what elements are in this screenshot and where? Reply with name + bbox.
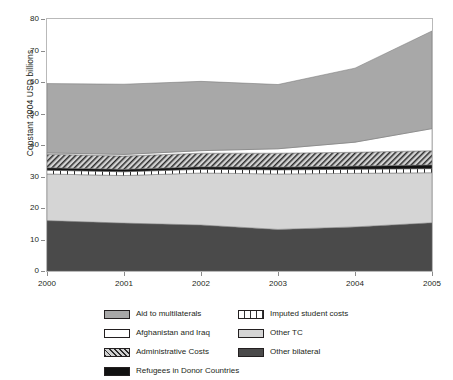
legend-column-left: Aid to multilateralsAfghanistan and Iraq…: [104, 306, 254, 380]
x-axis-tick-mark: [432, 272, 433, 276]
area-series: [47, 173, 432, 230]
y-axis-tick-label: 50: [13, 110, 39, 118]
y-axis-tick-mark: [41, 82, 45, 83]
legend-swatch-icon: [238, 348, 264, 357]
plot-svg: [47, 19, 432, 271]
y-axis-tick-label: 60: [13, 78, 39, 86]
y-axis-tick-mark: [41, 208, 45, 209]
legend-item[interactable]: Administrative Costs: [104, 344, 254, 360]
x-axis-tick-mark: [124, 272, 125, 276]
legend-item[interactable]: Other TC: [238, 325, 408, 341]
legend-item-label: Aid to multilaterals: [136, 310, 201, 318]
y-axis-tick-label: 80: [13, 15, 39, 23]
y-axis-tick-label: 20: [13, 204, 39, 212]
x-axis-tick-label: 2002: [181, 280, 221, 288]
x-axis-tick-label: 2004: [335, 280, 375, 288]
legend-item-label: Afghanistan and Iraq: [136, 329, 210, 337]
y-axis-tick-mark: [41, 145, 45, 146]
x-axis-tick-label: 2001: [104, 280, 144, 288]
legend-item[interactable]: Refugees in Donor Countries: [104, 363, 254, 379]
y-axis-tick-label: 10: [13, 236, 39, 244]
legend-item[interactable]: Afghanistan and Iraq: [104, 325, 254, 341]
legend-item[interactable]: Other bilateral: [238, 344, 408, 360]
x-axis-tick-mark: [355, 272, 356, 276]
y-axis-tick-label: 70: [13, 47, 39, 55]
legend-column-right: Imputed student costsOther TCOther bilat…: [238, 306, 408, 363]
legend-item-label: Other TC: [270, 329, 303, 337]
x-axis-tick-mark: [201, 272, 202, 276]
legend-swatch-icon: [104, 329, 130, 338]
y-axis-tick-mark: [41, 51, 45, 52]
x-axis-tick-label: 2005: [412, 280, 452, 288]
legend-item[interactable]: Imputed student costs: [238, 306, 408, 322]
x-axis-tick-label: 2000: [27, 280, 67, 288]
y-axis-tick-mark: [41, 240, 45, 241]
x-axis-tick-label: 2003: [258, 280, 298, 288]
legend-item-label: Refugees in Donor Countries: [136, 367, 239, 375]
y-axis-tick-label: 40: [13, 141, 39, 149]
legend-item[interactable]: Aid to multilaterals: [104, 306, 254, 322]
y-axis-tick-label: 0: [13, 267, 39, 275]
plot-area: [46, 18, 433, 272]
area-series: [47, 221, 432, 271]
y-axis-tick-mark: [41, 114, 45, 115]
x-axis-tick-mark: [278, 272, 279, 276]
legend-swatch-icon: [238, 310, 264, 319]
area-series: [47, 31, 432, 154]
legend-swatch-icon: [104, 310, 130, 319]
legend-item-label: Administrative Costs: [136, 348, 209, 356]
legend-swatch-icon: [104, 367, 130, 376]
x-axis-tick-mark: [47, 272, 48, 276]
legend-swatch-icon: [104, 348, 130, 357]
y-axis-tick-label: 30: [13, 173, 39, 181]
legend-item-label: Other bilateral: [270, 348, 320, 356]
y-axis-tick-mark: [41, 177, 45, 178]
legend-item-label: Imputed student costs: [270, 310, 348, 318]
legend-swatch-icon: [238, 329, 264, 338]
y-axis-tick-mark: [41, 19, 45, 20]
y-axis-tick-mark: [41, 271, 45, 272]
